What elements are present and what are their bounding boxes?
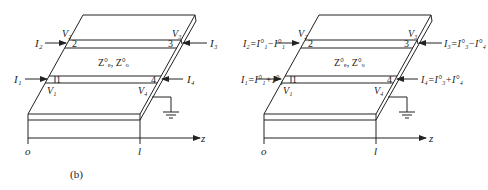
label-I3: I₃=I°₃−I°₄ <box>443 38 486 49</box>
slab-front <box>28 114 140 120</box>
slab-front <box>264 114 376 120</box>
port-1: 1 <box>56 74 61 85</box>
axis-origin-label: o <box>261 145 267 157</box>
label-V2: V₂ <box>62 28 72 39</box>
port-3: 3 <box>404 38 409 49</box>
left-labels: I₂ I₃ I₁ I₄ V₂ V₃ V₁ V₄ 2 3 1 4 Z°ₑ, Z°ₒ… <box>13 28 218 181</box>
figure-caption: (b) <box>70 168 83 181</box>
label-V3: V₃ <box>172 28 182 39</box>
port-2: 2 <box>308 38 313 49</box>
label-I4: I₄=I°₃+I°₄ <box>420 74 463 85</box>
port-2: 2 <box>72 38 77 49</box>
axis-z-label: z <box>200 132 206 144</box>
label-V2: V₂ <box>298 28 308 39</box>
label-I2: I₂ <box>34 37 43 49</box>
impedance-label: Z°ₑ, Z°ₒ <box>98 57 129 68</box>
impedance-label: Z°ₑ, Z°ₒ <box>334 57 365 68</box>
coupled-line-diagrams: I₂ I₃ I₁ I₄ V₂ V₃ V₁ V₄ 2 3 1 4 Z°ₑ, Z°ₒ… <box>0 0 488 190</box>
label-V4: V₄ <box>374 85 384 96</box>
port-1: 1 <box>292 74 297 85</box>
port-4: 4 <box>151 74 156 85</box>
upper-strip-edge <box>181 40 182 44</box>
label-I2: I₂=I°₁−I°₁ <box>242 38 285 49</box>
label-V1: V₁ <box>283 85 293 96</box>
axis-z-label: z <box>428 132 434 144</box>
slab-side <box>376 15 432 120</box>
axis-end-label: l <box>138 145 141 157</box>
label-I3: I₃ <box>209 37 218 49</box>
label-V1: V₁ <box>47 85 57 96</box>
label-I4: I₄ <box>186 73 195 85</box>
port-3: 3 <box>168 38 173 49</box>
ground-wire <box>388 97 407 112</box>
ground-wire <box>152 97 171 112</box>
label-V3: V₃ <box>408 28 418 39</box>
port-4: 4 <box>387 74 392 85</box>
slab-side <box>140 15 196 120</box>
label-I1: I₁ <box>13 73 22 85</box>
axis-end-label: l <box>374 145 377 157</box>
label-I1: I₁=I°₁+I°₁ <box>240 74 283 85</box>
axis-origin-label: o <box>25 145 31 157</box>
label-V4: V₄ <box>138 85 148 96</box>
